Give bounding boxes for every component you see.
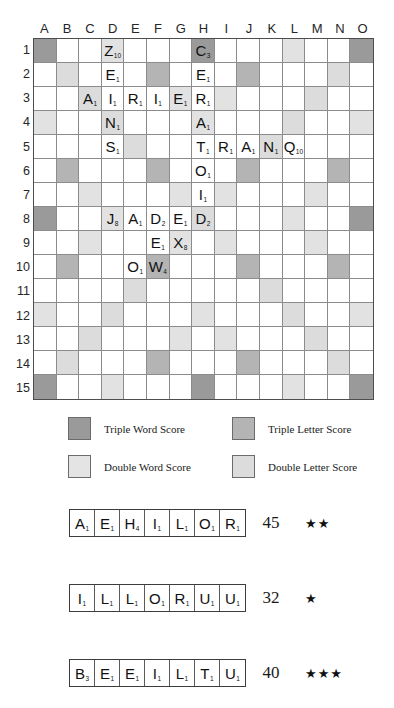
board-cell-G8[interactable]: E1 [170,207,193,231]
board-cell-N4[interactable] [328,111,351,135]
board-cell-G2[interactable] [170,63,193,87]
board-cell-K5[interactable]: N1 [260,135,283,159]
board-cell-L1[interactable] [283,39,306,63]
board-cell-G3[interactable]: E1 [170,87,193,111]
board-tile-E3[interactable]: R1 [124,87,146,110]
board-tile-F10[interactable]: W4 [147,255,169,278]
board-cell-C12[interactable] [79,303,102,327]
rack-tile[interactable]: T1 [195,660,220,686]
rack-tile[interactable]: U1 [195,585,220,611]
board-cell-L13[interactable] [283,327,306,351]
board-cell-K11[interactable] [260,279,283,303]
board-cell-A1[interactable] [34,39,57,63]
board-tile-H5[interactable]: T1 [192,135,214,158]
board-cell-O3[interactable] [350,87,373,111]
board-cell-K7[interactable] [260,183,283,207]
board-cell-F10[interactable]: W4 [147,255,170,279]
rack-tiles[interactable]: I1L1L1O1R1U1U1 [69,584,246,612]
board-cell-E7[interactable] [124,183,147,207]
board-cell-L7[interactable] [283,183,306,207]
board-cell-A14[interactable] [34,351,57,375]
board-cell-I13[interactable] [215,327,238,351]
board-cell-M7[interactable] [305,183,328,207]
board-cell-H2[interactable]: E1 [192,63,215,87]
board-cell-N12[interactable] [328,303,351,327]
board-cell-K13[interactable] [260,327,283,351]
rack-tile[interactable]: E1 [120,660,145,686]
board-cell-O13[interactable] [350,327,373,351]
board-cell-M4[interactable] [305,111,328,135]
board-cell-E3[interactable]: R1 [124,87,147,111]
board-cell-C11[interactable] [79,279,102,303]
board-cell-O4[interactable] [350,111,373,135]
board-cell-H1[interactable]: C3 [192,39,215,63]
board-cell-A4[interactable] [34,111,57,135]
board-cell-I1[interactable] [215,39,238,63]
board-cell-A2[interactable] [34,63,57,87]
board-cell-K15[interactable] [260,375,283,399]
board-tile-G3[interactable]: E1 [170,87,192,110]
board-tile-G8[interactable]: E1 [170,207,192,230]
board-cell-J11[interactable] [237,279,260,303]
board-cell-B6[interactable] [57,159,80,183]
rack-tile[interactable]: U1 [220,585,245,611]
board-cell-H13[interactable] [192,327,215,351]
board-cell-E5[interactable] [124,135,147,159]
board-cell-C7[interactable] [79,183,102,207]
board-cell-K2[interactable] [260,63,283,87]
board-cell-D9[interactable] [102,231,125,255]
board-cell-K8[interactable] [260,207,283,231]
board-cell-C1[interactable] [79,39,102,63]
board-tile-G9[interactable]: X8 [170,231,192,254]
board-cell-C2[interactable] [79,63,102,87]
board-cell-G11[interactable] [170,279,193,303]
board-cell-A10[interactable] [34,255,57,279]
board-cell-N14[interactable] [328,351,351,375]
board-cell-F13[interactable] [147,327,170,351]
board-cell-E4[interactable] [124,111,147,135]
board-cell-F11[interactable] [147,279,170,303]
board-cell-C6[interactable] [79,159,102,183]
board-cell-F1[interactable] [147,39,170,63]
board-cell-A9[interactable] [34,231,57,255]
board-cell-G15[interactable] [170,375,193,399]
board-cell-O5[interactable] [350,135,373,159]
board-cell-F4[interactable] [147,111,170,135]
board-cell-C4[interactable] [79,111,102,135]
board-cell-D8[interactable]: J8 [102,207,125,231]
board-cell-F7[interactable] [147,183,170,207]
board-cell-N7[interactable] [328,183,351,207]
board-cell-J4[interactable] [237,111,260,135]
rack-tile[interactable]: H4 [120,510,145,536]
board-cell-B15[interactable] [57,375,80,399]
board-cell-N1[interactable] [328,39,351,63]
board-cell-F8[interactable]: D2 [147,207,170,231]
board-cell-M9[interactable] [305,231,328,255]
board-tile-D3[interactable]: I1 [102,87,124,110]
board-tile-H8[interactable]: D2 [192,207,214,230]
rack-tiles[interactable]: B3E1E1I1L1T1U1 [69,659,246,687]
board-cell-C9[interactable] [79,231,102,255]
board-cell-L10[interactable] [283,255,306,279]
board-cell-E8[interactable]: A1 [124,207,147,231]
rack-tile[interactable]: R1 [170,585,195,611]
board-cell-J15[interactable] [237,375,260,399]
board-cell-J8[interactable] [237,207,260,231]
board-cell-H14[interactable] [192,351,215,375]
board-cell-H9[interactable] [192,231,215,255]
board-cell-H10[interactable] [192,255,215,279]
board-cell-J9[interactable] [237,231,260,255]
board-tile-D1[interactable]: Z10 [102,39,124,62]
board-cell-J12[interactable] [237,303,260,327]
board-cell-N2[interactable] [328,63,351,87]
board-cell-K3[interactable] [260,87,283,111]
board-tile-D8[interactable]: J8 [102,207,124,230]
board-cell-I7[interactable] [215,183,238,207]
board-cell-O9[interactable] [350,231,373,255]
board-cell-B7[interactable] [57,183,80,207]
board-cell-N6[interactable] [328,159,351,183]
board-cell-D14[interactable] [102,351,125,375]
board-cell-G12[interactable] [170,303,193,327]
board-cell-E9[interactable] [124,231,147,255]
board-cell-G1[interactable] [170,39,193,63]
